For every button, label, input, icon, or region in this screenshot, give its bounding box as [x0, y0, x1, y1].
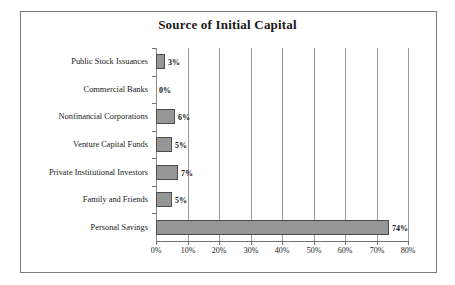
- x-axis-tick: [408, 241, 409, 245]
- category-label: Private Institutional Investors: [49, 168, 148, 177]
- category-label: Commercial Banks: [84, 85, 148, 94]
- x-axis-tick: [377, 241, 378, 245]
- category-label: Venture Capital Funds: [73, 140, 148, 149]
- y-axis-tick: [152, 76, 156, 77]
- bar-value-label: 5%: [175, 196, 187, 205]
- x-axis-tick: [156, 241, 157, 245]
- bar: [156, 137, 172, 152]
- x-axis-tick-label: 40%: [275, 246, 290, 255]
- x-axis-tick-label: 80%: [401, 246, 416, 255]
- plot-area: [156, 48, 408, 241]
- bar: [156, 220, 389, 235]
- category-label: Nonfinancial Corporations: [58, 112, 148, 121]
- x-axis-tick-label: 10%: [181, 246, 196, 255]
- bar: [156, 54, 165, 69]
- bar: [156, 165, 178, 180]
- x-axis-tick-label: 0%: [151, 246, 162, 255]
- chart-title: Source of Initial Capital: [0, 17, 455, 33]
- x-axis-tick-label: 30%: [244, 246, 259, 255]
- bar-value-label: 74%: [392, 224, 408, 233]
- x-axis-tick: [188, 241, 189, 245]
- x-axis-tick-label: 50%: [307, 246, 322, 255]
- bar-value-label: 7%: [181, 169, 193, 178]
- x-axis-tick: [219, 241, 220, 245]
- bar-value-label: 6%: [178, 113, 190, 122]
- bar-value-label: 3%: [168, 58, 180, 67]
- y-axis-tick: [152, 131, 156, 132]
- category-label: Public Stock Issuances: [71, 57, 148, 66]
- y-axis-tick: [152, 213, 156, 214]
- x-axis-tick-label: 20%: [212, 246, 227, 255]
- category-label: Family and Friends: [83, 195, 148, 204]
- y-axis-tick: [152, 48, 156, 49]
- bar-value-label: 5%: [175, 141, 187, 150]
- bar: [156, 109, 175, 124]
- gridline-70%: [377, 48, 378, 241]
- y-axis-tick: [152, 103, 156, 104]
- gridline-40%: [282, 48, 283, 241]
- y-axis-tick: [152, 158, 156, 159]
- gridline-10%: [188, 48, 189, 241]
- x-axis-tick-label: 70%: [370, 246, 385, 255]
- chart-figure: Source of Initial Capital 0%10%20%30%40%…: [0, 0, 455, 285]
- x-axis-tick-label: 60%: [338, 246, 353, 255]
- x-axis-tick: [345, 241, 346, 245]
- x-axis-tick: [314, 241, 315, 245]
- category-label: Personal Savings: [91, 223, 148, 232]
- gridline-30%: [251, 48, 252, 241]
- bar-value-label: 0%: [159, 86, 171, 95]
- x-axis-tick: [282, 241, 283, 245]
- y-axis-tick: [152, 186, 156, 187]
- gridline-20%: [219, 48, 220, 241]
- bar: [156, 192, 172, 207]
- gridline-80%: [408, 48, 409, 241]
- gridline-50%: [314, 48, 315, 241]
- x-axis-tick: [251, 241, 252, 245]
- gridline-60%: [345, 48, 346, 241]
